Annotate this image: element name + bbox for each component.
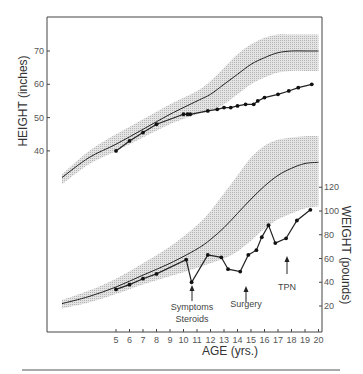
height-axis-title: HEIGHT (inches) (16, 55, 30, 146)
svg-text:40: 40 (34, 146, 44, 156)
data-point (244, 102, 248, 106)
data-point (263, 96, 267, 100)
data-point (206, 253, 210, 257)
data-point (155, 272, 159, 276)
svg-text:40: 40 (324, 277, 334, 287)
svg-text:11: 11 (192, 335, 201, 345)
data-point (255, 248, 259, 252)
data-point (284, 236, 288, 240)
svg-text:18: 18 (286, 335, 296, 345)
arrow-up-icon (244, 286, 249, 292)
data-point (226, 267, 230, 271)
data-point (246, 253, 250, 257)
data-point (309, 208, 313, 212)
surgery-label: Surgery (230, 299, 262, 309)
weight-axis-title: WEIGHT (pounds) (339, 206, 353, 304)
data-point (188, 112, 192, 116)
height-axis-ticks: 40506070 (34, 46, 50, 156)
data-point (276, 92, 280, 96)
svg-text:20: 20 (324, 301, 334, 311)
data-point (184, 258, 188, 262)
svg-text:20: 20 (313, 335, 323, 345)
data-point (141, 277, 145, 281)
svg-text:10: 10 (178, 335, 188, 345)
annotation-tpn: TPN (278, 256, 296, 292)
data-point (295, 219, 299, 223)
data-point (114, 287, 118, 291)
data-point (256, 99, 260, 103)
data-point (296, 86, 300, 90)
svg-text:70: 70 (34, 46, 44, 56)
data-point (114, 149, 118, 153)
annotation-surgery: Surgery (230, 286, 262, 309)
growth-chart: 567891011121314151617181920 40506070 204… (0, 0, 363, 374)
data-point (252, 102, 256, 106)
svg-text:60: 60 (324, 254, 334, 264)
data-point (236, 104, 240, 108)
svg-text:6: 6 (127, 335, 132, 345)
data-point (287, 89, 291, 93)
svg-text:120: 120 (324, 182, 339, 192)
symptoms-label: Symptoms (171, 302, 214, 312)
data-point (190, 280, 194, 284)
data-point (219, 255, 223, 259)
data-point (206, 109, 210, 113)
tpn-label: TPN (278, 282, 296, 292)
svg-text:16: 16 (259, 335, 269, 345)
svg-text:100: 100 (324, 206, 339, 216)
data-point (182, 112, 186, 116)
svg-text:60: 60 (34, 79, 44, 89)
data-point (229, 106, 233, 110)
svg-text:5: 5 (113, 335, 118, 345)
age-axis-title: AGE (yrs.) (202, 344, 258, 358)
svg-text:9: 9 (167, 335, 172, 345)
arrow-up-icon (285, 256, 290, 262)
data-point (238, 270, 242, 274)
data-point (260, 235, 264, 239)
data-point (141, 131, 145, 135)
data-point (128, 139, 132, 143)
data-point (222, 106, 226, 110)
data-point (267, 223, 271, 227)
data-point (310, 82, 314, 86)
svg-text:50: 50 (34, 113, 44, 123)
svg-text:8: 8 (154, 335, 159, 345)
data-point (128, 283, 132, 287)
data-point (155, 122, 159, 126)
svg-text:19: 19 (300, 335, 310, 345)
svg-text:17: 17 (273, 335, 283, 345)
steroids-label: Steroids (175, 314, 209, 324)
annotation-symptoms: Symptoms Steroids (171, 285, 214, 324)
svg-text:7: 7 (140, 335, 145, 345)
data-point (273, 241, 277, 245)
arrow-up-icon (190, 285, 195, 291)
data-point (215, 107, 219, 111)
x-axis-ticks: 567891011121314151617181920 (113, 329, 323, 345)
svg-text:80: 80 (324, 230, 334, 240)
